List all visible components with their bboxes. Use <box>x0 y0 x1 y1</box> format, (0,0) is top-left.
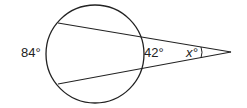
angle-arc <box>201 47 202 58</box>
far-arc-label: 84° <box>21 46 41 59</box>
angle-x-label: x° <box>186 46 198 59</box>
near-arc-label: 42° <box>144 46 164 59</box>
circle <box>46 5 144 103</box>
